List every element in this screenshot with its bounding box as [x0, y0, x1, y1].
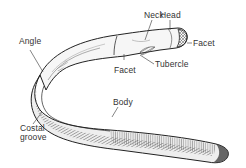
label-body: Body [113, 98, 133, 107]
label-angle: Angle [19, 37, 41, 46]
label-facet-tubercle: Facet [114, 66, 136, 75]
leader-tubercle [140, 55, 154, 64]
rib-diagram: Neck Head Facet Angle Facet Tubercle Bod… [0, 0, 246, 168]
label-tubercle: Tubercle [155, 60, 189, 69]
label-costal-groove-line2: groove [20, 133, 47, 142]
rib-illustration [0, 0, 246, 168]
label-head: Head [160, 11, 181, 20]
leader-angle [30, 50, 43, 72]
label-facet-head: Facet [193, 39, 215, 48]
rib-body [31, 75, 228, 163]
leader-body [112, 107, 118, 117]
